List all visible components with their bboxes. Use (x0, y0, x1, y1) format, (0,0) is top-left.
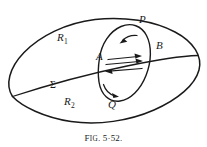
label-point-q: Q (108, 99, 116, 110)
figure-drawing (0, 0, 207, 147)
label-region-r1: R1 (57, 32, 67, 43)
label-point-a: A (96, 51, 103, 62)
caption-smallcaps: IG (90, 135, 98, 143)
sigma-dividing-curve (13, 56, 199, 97)
label-region-r2: R2 (64, 96, 74, 107)
figure-caption: FIG. 5·52. (0, 133, 207, 143)
label-r1-subscript: 1 (64, 37, 68, 46)
top-arc-arrow (120, 35, 138, 43)
upper-right-arrow-shaft (108, 57, 138, 60)
label-sigma: Σ (50, 80, 56, 90)
label-point-p: P (139, 14, 146, 25)
label-point-b: B (156, 40, 163, 51)
figure-container: R1 R2 Σ A B P Q FIG. 5·52. (0, 0, 207, 147)
upper-right-arrow-head (135, 54, 143, 59)
upper-right-arrow (108, 54, 142, 60)
caption-number: . 5·52. (98, 133, 123, 143)
label-r2-subscript: 2 (71, 101, 75, 110)
label-r2-symbol: R (64, 95, 71, 107)
top-arc-arrow-head (120, 38, 128, 43)
sigma-curve-group (13, 56, 199, 97)
label-r1-symbol: R (57, 31, 64, 43)
